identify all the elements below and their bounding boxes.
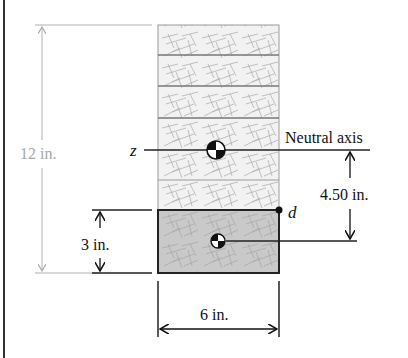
bottom-board-centroid-icon xyxy=(211,234,225,248)
z-axis-label: z xyxy=(130,142,137,159)
na-offset-label: 4.50 in. xyxy=(320,187,368,203)
bottom-board-height-label: 3 in. xyxy=(81,237,109,253)
centroid-icon xyxy=(207,141,225,159)
neutral-axis-label: Neutral axis xyxy=(285,130,363,146)
overall-height-label: 12 in. xyxy=(20,146,56,162)
point-d-label: d xyxy=(288,204,297,221)
width-label: 6 in. xyxy=(200,307,228,323)
beam-cross-section-diagram xyxy=(0,0,408,358)
point-d-marker xyxy=(276,207,283,214)
